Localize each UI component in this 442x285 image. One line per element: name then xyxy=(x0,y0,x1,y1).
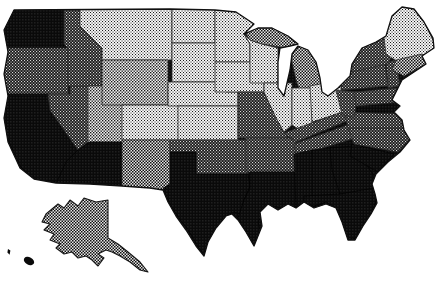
state-wyoming xyxy=(102,60,168,105)
state-colorado xyxy=(122,105,180,140)
hawaii-island-large-icon xyxy=(22,255,35,267)
state-florida xyxy=(304,188,377,240)
hawaii-island-small-icon xyxy=(7,249,10,255)
state-kansas xyxy=(178,106,238,140)
map-canvas xyxy=(0,0,442,285)
state-south-dakota xyxy=(172,43,218,82)
state-alaska-inset xyxy=(42,198,148,272)
state-oregon xyxy=(2,48,68,94)
state-new-mexico xyxy=(122,140,170,192)
us-choropleth-map xyxy=(0,0,442,285)
state-washington xyxy=(2,4,66,48)
state-arkansas xyxy=(246,138,296,172)
hawaii-islands xyxy=(7,249,35,267)
